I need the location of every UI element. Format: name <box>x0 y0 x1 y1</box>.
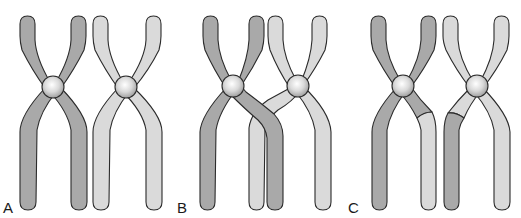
panel-c: C <box>348 16 510 216</box>
chromatid-dark-right-recombinant-lower <box>417 112 436 210</box>
centromere-light <box>115 76 137 98</box>
chromatid-light-right <box>123 16 162 210</box>
panel-a: A <box>3 16 162 216</box>
chromosome-dark <box>371 16 436 210</box>
chromosome-light <box>443 16 510 210</box>
chromatid-light-left <box>93 16 129 210</box>
panel-b: B <box>177 16 331 216</box>
chromatid-light-left-upper <box>443 16 480 118</box>
chromatid-light-right <box>474 16 510 210</box>
panel-label-b: B <box>177 199 187 216</box>
panel-label-c: C <box>348 199 359 216</box>
chromosome-dark <box>20 16 87 210</box>
crossing-over-diagram: A B <box>0 0 521 218</box>
chromatid-dark-left <box>20 16 56 210</box>
chromatid-light-right <box>296 16 331 210</box>
centromere-dark <box>392 75 414 97</box>
panel-label-a: A <box>3 199 13 216</box>
chromatid-dark-right-upper <box>400 16 436 118</box>
centromere-light <box>287 75 309 97</box>
chromatid-dark-right <box>50 16 87 210</box>
chromatid-dark-left <box>200 16 236 210</box>
centromere-light <box>466 75 488 97</box>
centromere-dark <box>222 75 244 97</box>
chromatid-dark-left <box>371 16 406 210</box>
chromatid-light-left-recombinant-lower <box>444 113 464 210</box>
centromere-dark <box>42 76 64 98</box>
chromosome-light <box>93 16 162 210</box>
